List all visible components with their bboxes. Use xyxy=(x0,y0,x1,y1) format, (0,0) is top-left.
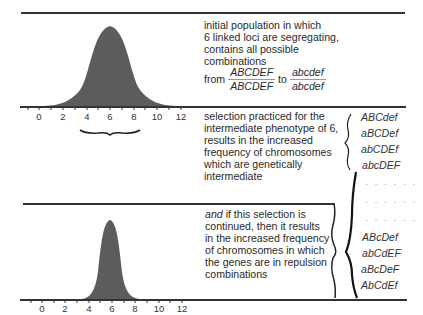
genotype-range: from ABCDEF ABCDEF to abcdef abcdef xyxy=(204,67,326,92)
description-line: of chromosomes in which xyxy=(205,244,325,256)
description-line: intermediate phenotype of 6, xyxy=(204,122,338,134)
description-line: and if this selection is xyxy=(205,208,306,220)
from-fraction: ABCDEF ABCDEF xyxy=(228,67,275,92)
to-fraction: abcdef abcdef xyxy=(290,67,326,92)
axis-1-tick-12: 12 xyxy=(176,111,187,122)
genotype-intermediate: aBCDef xyxy=(361,127,398,139)
from-denominator: ABCDEF xyxy=(228,80,275,92)
axis-2-tick-0: 0 xyxy=(39,303,44,314)
axis-1-tick-0: 0 xyxy=(36,111,41,122)
genotype-ellipsis: · · · · · · xyxy=(365,215,418,225)
genotype-repulsion: ABcDef xyxy=(362,231,398,243)
axis-1-ticks xyxy=(28,106,181,110)
description-line-rest: if this selection is xyxy=(223,208,306,220)
description-line: the genes are in repulsion xyxy=(205,256,327,268)
description-line: contains all possible xyxy=(204,43,299,55)
axis-1-tick-4: 4 xyxy=(84,111,89,122)
axis-2-tick-2: 2 xyxy=(62,303,67,314)
axis-1-tick-6: 6 xyxy=(107,111,112,122)
genotype-intermediate: abCDEf xyxy=(361,143,398,155)
description-line: intermediate xyxy=(204,170,262,182)
axis-1-tick-10: 10 xyxy=(152,111,163,122)
axis-2-tick-8: 8 xyxy=(132,303,137,314)
to-numerator: abcdef xyxy=(290,67,326,80)
genotype-repulsion: aBcDeF xyxy=(361,263,399,275)
description-line: which are genetically xyxy=(204,158,302,170)
axis-2-tick-6: 6 xyxy=(109,303,114,314)
description-line: in the increased frequency xyxy=(205,232,329,244)
selection-range-brace xyxy=(80,130,140,135)
description-line: continued, then it results xyxy=(205,220,320,232)
axis-1-tick-8: 8 xyxy=(131,111,136,122)
initial-distribution-curve xyxy=(40,26,180,106)
from-numerator: ABCDEF xyxy=(228,67,275,80)
axis-2-tick-10: 10 xyxy=(154,303,165,314)
axis-1-tick-2: 2 xyxy=(60,111,65,122)
to-denominator: abcdef xyxy=(290,80,326,92)
genotype-intermediate: abcDEF xyxy=(362,159,400,171)
axis-2-tick-4: 4 xyxy=(86,303,91,314)
axis-2-tick-12: 12 xyxy=(177,303,188,314)
genotype-repulsion: AbCdEf xyxy=(361,279,398,291)
all-genotypes-brace xyxy=(346,172,357,298)
genotype-ellipsis: · · · · · · xyxy=(365,179,418,189)
genotype-intermediate: ABCdef xyxy=(361,111,398,123)
description-line: initial population in which xyxy=(204,19,321,31)
description-line: results in the increased xyxy=(204,134,313,146)
lower-box-brace xyxy=(332,203,336,298)
genotype-repulsion: abCdEF xyxy=(362,247,401,259)
to-label: to xyxy=(278,73,287,85)
intermediate-genotypes-brace xyxy=(345,114,351,170)
description-line: selection practiced for the xyxy=(204,110,325,122)
italic-and: and xyxy=(205,208,223,220)
genotype-ellipsis: · · · · · · xyxy=(365,197,418,207)
selected-distribution-curve xyxy=(80,220,142,299)
from-label: from xyxy=(204,73,225,85)
description-line: frequency of chromosomes xyxy=(204,146,332,158)
description-line: combinations xyxy=(205,268,267,280)
description-line: 6 linked loci are segregating, xyxy=(204,31,339,43)
